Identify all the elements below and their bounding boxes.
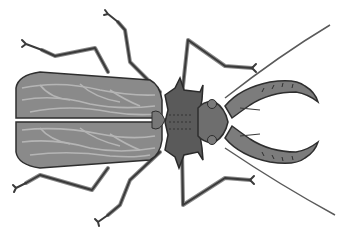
eye-bottom: [208, 136, 217, 145]
elytra: [16, 72, 165, 168]
beetle-figure: [0, 0, 347, 241]
mandibles: [225, 81, 318, 164]
beetle-illustration: [0, 0, 347, 241]
eye-top: [208, 100, 217, 109]
